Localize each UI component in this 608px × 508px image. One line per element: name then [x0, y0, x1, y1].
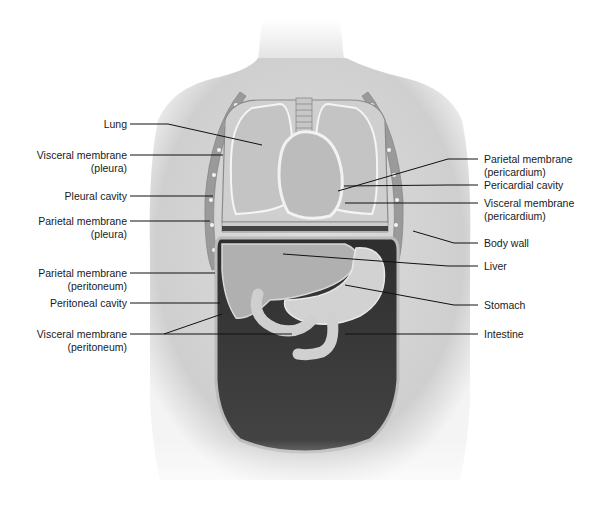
label-parietal-pericardium: Parietal membrane (pericardium): [484, 153, 573, 178]
label-intestine: Intestine: [484, 328, 524, 341]
label-visceral-pleura: Visceral membrane (pleura): [37, 149, 127, 174]
anatomy-diagram: Lung Visceral membrane (pleura) Pleural …: [0, 0, 608, 508]
torso-illustration: [0, 0, 608, 508]
label-liver: Liver: [484, 260, 507, 273]
label-body-wall: Body wall: [484, 237, 529, 250]
label-visceral-peritoneum: Visceral membrane (peritoneum): [37, 328, 127, 353]
label-pleural-cavity: Pleural cavity: [65, 190, 127, 203]
label-parietal-pleura: Parietal membrane (pleura): [38, 215, 127, 240]
label-visceral-pericardium: Visceral membrane (pericardium): [484, 197, 574, 222]
label-peritoneal-cavity: Peritoneal cavity: [50, 297, 127, 310]
heart: [279, 132, 342, 219]
label-lung: Lung: [104, 118, 127, 131]
label-parietal-peritoneum: Parietal membrane (peritoneum): [38, 267, 127, 292]
label-pericardial-cavity: Pericardial cavity: [484, 179, 563, 192]
label-stomach: Stomach: [484, 299, 525, 312]
